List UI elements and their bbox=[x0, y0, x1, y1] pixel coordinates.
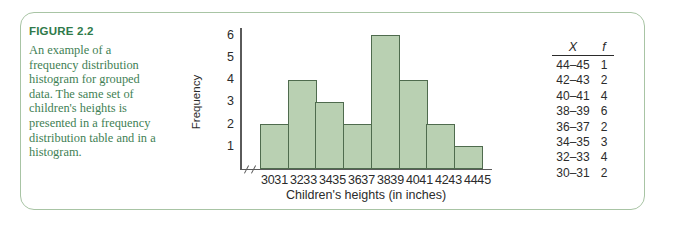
histogram-bar bbox=[260, 124, 289, 168]
table-cell-x: 30–31 bbox=[552, 165, 594, 180]
histogram-bar bbox=[426, 124, 455, 168]
x-axis-tick-label: 36 bbox=[348, 173, 362, 187]
y-axis-tick-label: 1 bbox=[227, 140, 234, 153]
x-axis-title: Children's heights (in inches) bbox=[240, 188, 492, 202]
table-row: 34–353 bbox=[552, 134, 614, 149]
y-axis-tick-label: 2 bbox=[227, 117, 234, 130]
table-header-f: f bbox=[594, 40, 614, 56]
x-axis-tick-label: 40 bbox=[406, 173, 420, 187]
table-cell-f: 1 bbox=[594, 56, 614, 73]
table-row: 44–451 bbox=[552, 56, 614, 73]
table-row: 30–312 bbox=[552, 165, 614, 180]
table-cell-f: 2 bbox=[594, 165, 614, 180]
y-axis-title: Frequency bbox=[190, 62, 202, 142]
histogram-bars bbox=[260, 29, 482, 169]
x-axis-tick-label: 37 bbox=[361, 173, 375, 187]
x-axis-tick-label: 44 bbox=[464, 173, 478, 187]
histogram-bar bbox=[399, 80, 428, 169]
histogram-bar bbox=[288, 80, 317, 169]
table-cell-f: 2 bbox=[594, 119, 614, 134]
table-header-row: X f bbox=[552, 40, 614, 56]
x-axis-tick-label: 34 bbox=[319, 173, 333, 187]
table-cell-f: 2 bbox=[594, 73, 614, 88]
x-axis-tick-label: 43 bbox=[448, 173, 462, 187]
x-axis-tick-label: 38 bbox=[377, 173, 391, 187]
frequency-distribution-table: X f 44–45142–43240–41438–39636–37234–353… bbox=[552, 40, 614, 181]
plot-area: 654321 bbox=[240, 28, 492, 170]
y-axis-line bbox=[240, 28, 242, 170]
table-cell-x: 34–35 bbox=[552, 134, 594, 149]
y-axis-tick-label: 5 bbox=[227, 51, 234, 64]
table-cell-x: 32–33 bbox=[552, 150, 594, 165]
histogram-bar bbox=[315, 102, 344, 169]
table-row: 42–432 bbox=[552, 73, 614, 88]
table-header-x: X bbox=[552, 40, 594, 56]
x-axis-tick-label: 41 bbox=[419, 173, 433, 187]
x-axis-tick-labels: 30313233343536373839404142434445 bbox=[240, 173, 492, 189]
table-cell-f: 4 bbox=[594, 150, 614, 165]
table-cell-x: 40–41 bbox=[552, 88, 594, 103]
table-cell-f: 4 bbox=[594, 88, 614, 103]
table-cell-f: 3 bbox=[594, 134, 614, 149]
histogram-bar bbox=[454, 146, 483, 168]
table-row: 36–372 bbox=[552, 119, 614, 134]
table-cell-x: 36–37 bbox=[552, 119, 594, 134]
histogram-chart: Frequency 654321 30313233343536373839404… bbox=[196, 24, 516, 200]
x-axis-tick-label: 39 bbox=[390, 173, 404, 187]
table-cell-x: 44–45 bbox=[552, 56, 594, 73]
figure-label: FIGURE 2.2 bbox=[29, 25, 161, 37]
table-row: 40–414 bbox=[552, 88, 614, 103]
table-row: 38–396 bbox=[552, 104, 614, 119]
figure-caption-text: An example of a frequency distribution h… bbox=[29, 43, 161, 160]
table-row: 32–334 bbox=[552, 150, 614, 165]
y-axis-tick-label: 3 bbox=[227, 95, 234, 108]
histogram-bar bbox=[343, 124, 372, 168]
histogram-bar bbox=[371, 35, 400, 168]
x-axis-tick-label: 42 bbox=[435, 173, 449, 187]
table-cell-f: 6 bbox=[594, 104, 614, 119]
figure-caption-block: FIGURE 2.2 An example of a frequency dis… bbox=[29, 25, 161, 160]
x-axis-tick-label: 31 bbox=[274, 173, 288, 187]
x-axis-tick-label: 35 bbox=[332, 173, 346, 187]
x-axis-line bbox=[240, 169, 492, 171]
x-axis-tick-label: 32 bbox=[290, 173, 304, 187]
table-cell-x: 42–43 bbox=[552, 73, 594, 88]
x-axis-tick-label: 33 bbox=[303, 173, 317, 187]
x-axis-tick-label: 30 bbox=[261, 173, 275, 187]
table-cell-x: 38–39 bbox=[552, 104, 594, 119]
y-axis-tick-label: 4 bbox=[227, 73, 234, 86]
x-axis-tick-label: 45 bbox=[477, 173, 491, 187]
y-axis-tick-label: 6 bbox=[227, 28, 234, 41]
